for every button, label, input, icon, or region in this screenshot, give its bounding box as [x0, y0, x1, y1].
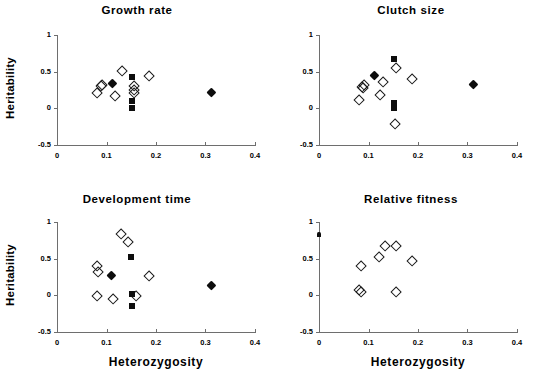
figure-panel-grid: Growth rate-0.500.5100.10.20.30.4Heritab…	[0, 0, 548, 378]
marker-glyph	[206, 87, 216, 97]
marker-glyph	[108, 293, 120, 305]
marker-glyph	[374, 89, 386, 101]
y-tick	[54, 222, 58, 223]
y-tick-label: -0.5	[285, 327, 313, 336]
y-tick-label: 0	[23, 290, 51, 299]
marker-glyph	[390, 240, 402, 252]
x-tick	[467, 329, 468, 333]
x-tick	[369, 142, 370, 146]
marker-glyph	[390, 62, 402, 74]
marker-glyph	[143, 70, 155, 82]
panel-title: Growth rate	[0, 4, 274, 16]
y-tick	[54, 295, 58, 296]
x-tick	[255, 329, 256, 333]
scatter-panel: Clutch size-0.500.5100.10.20.30.4	[274, 0, 548, 189]
y-axis-line	[57, 35, 58, 145]
y-tick	[316, 108, 320, 109]
marker-glyph	[379, 240, 391, 252]
marker-glyph	[109, 91, 121, 103]
marker-glyph	[129, 291, 135, 297]
marker-glyph	[390, 286, 402, 298]
y-tick-label: -0.5	[23, 327, 51, 336]
y-tick	[316, 35, 320, 36]
x-tick	[107, 329, 108, 333]
marker-glyph	[129, 105, 135, 111]
marker-glyph	[373, 251, 385, 263]
y-tick-label: 0.5	[23, 254, 51, 263]
x-tick-label: 0.2	[142, 338, 170, 347]
y-tick-label: 0.5	[285, 67, 313, 76]
marker-glyph	[391, 56, 397, 62]
x-tick	[418, 142, 419, 146]
x-tick-label: 0	[305, 151, 333, 160]
x-tick	[369, 329, 370, 333]
y-tick-label: -0.5	[285, 140, 313, 149]
marker-glyph	[129, 98, 135, 104]
scatter-panel: Development time-0.500.5100.10.20.30.4He…	[0, 189, 274, 378]
x-tick-label: 0.1	[355, 338, 383, 347]
x-tick-label: 0.4	[241, 151, 269, 160]
marker-glyph	[317, 232, 321, 237]
marker-glyph	[129, 303, 135, 309]
y-tick-label: 1	[285, 30, 313, 39]
x-tick	[205, 329, 206, 333]
x-axis-label: Heterozygosity	[47, 355, 265, 369]
x-tick-label: 0.4	[503, 151, 531, 160]
y-tick	[316, 259, 320, 260]
y-tick-label: 0	[23, 103, 51, 112]
x-tick-label: 0.4	[241, 338, 269, 347]
marker-glyph	[107, 271, 117, 281]
x-tick-label: 0.2	[142, 151, 170, 160]
y-tick	[54, 108, 58, 109]
panel-title: Relative fitness	[274, 193, 548, 205]
marker-glyph	[356, 261, 368, 273]
y-tick-label: 0	[285, 103, 313, 112]
x-tick-label: 0	[43, 338, 71, 347]
marker-glyph	[377, 77, 389, 89]
scatter-panel: Relative fitness-0.500.5100.10.20.30.4He…	[274, 189, 548, 378]
x-tick-label: 0.1	[355, 151, 383, 160]
panel-title: Development time	[0, 193, 274, 205]
scatter-panel: Growth rate-0.500.5100.10.20.30.4Heritab…	[0, 0, 274, 189]
x-tick	[205, 142, 206, 146]
x-tick	[57, 329, 58, 333]
y-axis-line	[319, 222, 320, 332]
marker-glyph	[129, 74, 135, 80]
y-tick	[54, 72, 58, 73]
x-tick	[156, 329, 157, 333]
x-tick-label: 0.3	[192, 151, 220, 160]
x-tick	[418, 329, 419, 333]
marker-glyph	[407, 256, 419, 268]
y-tick-label: -0.5	[23, 140, 51, 149]
y-tick-label: 1	[23, 30, 51, 39]
x-tick	[156, 142, 157, 146]
y-axis-label: Heritability	[4, 220, 16, 330]
y-tick-label: 0.5	[23, 67, 51, 76]
marker-glyph	[353, 94, 365, 106]
marker-glyph	[356, 286, 368, 298]
y-tick-label: 0.5	[285, 254, 313, 263]
marker-glyph	[107, 79, 117, 89]
marker-glyph	[128, 254, 134, 260]
y-tick	[316, 72, 320, 73]
x-tick	[319, 142, 320, 146]
x-tick	[517, 329, 518, 333]
y-axis-line	[319, 35, 320, 145]
marker-glyph	[391, 105, 397, 111]
y-tick-label: 1	[285, 217, 313, 226]
y-axis-label: Heritability	[4, 33, 16, 143]
x-tick	[517, 142, 518, 146]
x-tick-label: 0.1	[93, 338, 121, 347]
x-tick	[319, 329, 320, 333]
y-tick	[316, 222, 320, 223]
x-tick-label: 0.3	[454, 338, 482, 347]
x-tick-label: 0.2	[404, 338, 432, 347]
x-tick-label: 0	[305, 338, 333, 347]
y-tick	[54, 259, 58, 260]
x-tick	[107, 142, 108, 146]
panel-title: Clutch size	[274, 4, 548, 16]
x-tick	[467, 142, 468, 146]
y-tick-label: 0	[285, 290, 313, 299]
x-axis-label: Heterozygosity	[309, 355, 527, 369]
marker-glyph	[143, 270, 155, 282]
